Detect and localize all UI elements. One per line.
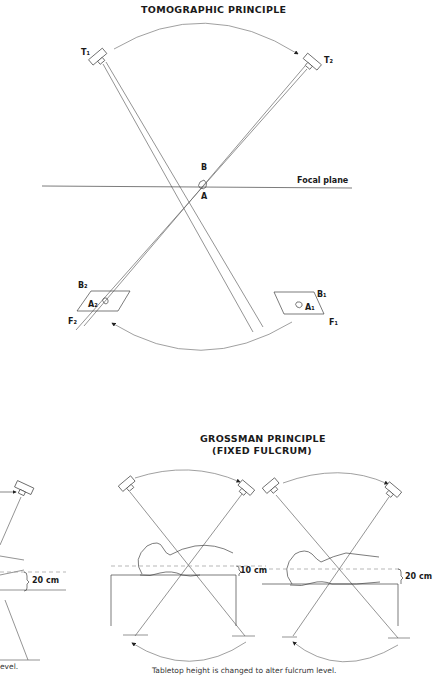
left-partial-caption: evel. xyxy=(0,662,18,671)
label-b2: B₂ xyxy=(78,281,88,290)
xray-tube-t2-icon xyxy=(301,53,322,73)
left-measure-label: 20 cm xyxy=(32,576,59,585)
label-a: A xyxy=(201,192,207,201)
bottom-diagram-title-line1: GROSSMAN PRINCIPLE xyxy=(200,433,326,444)
middle-measure-label: 10 cm xyxy=(240,566,267,575)
right-panel xyxy=(262,473,410,662)
label-b: B xyxy=(201,163,207,172)
diagram-canvas xyxy=(0,0,442,678)
middle-tube-arc xyxy=(135,470,240,482)
focal-plane-line xyxy=(42,186,352,188)
right-detector-arc xyxy=(293,642,398,662)
right-tube-arc xyxy=(283,473,388,484)
label-f2: F₂ xyxy=(68,317,77,326)
label-a1: A₁ xyxy=(305,303,315,312)
xray-tube-t1-icon xyxy=(89,48,110,68)
bottom-diagram-title-line2: (FIXED FULCRUM) xyxy=(212,445,312,456)
bottom-diagram xyxy=(0,470,410,662)
middle-detector-arc xyxy=(132,642,246,661)
label-focal-plane: Focal plane xyxy=(297,176,348,185)
xray-tube-right-right-icon xyxy=(382,482,401,501)
bottom-caption: Tabletop height is changed to alter fulc… xyxy=(152,666,336,675)
label-f1: F₁ xyxy=(329,318,338,327)
top-diagram-title: TOMOGRAPHIC PRINCIPLE xyxy=(141,4,286,15)
left-partial-panel xyxy=(0,481,66,660)
label-t1: T₁ xyxy=(81,48,90,57)
tube-motion-arc xyxy=(114,23,298,54)
xray-tube-left-partial-icon xyxy=(13,481,34,499)
xray-tube-right-left-icon xyxy=(262,478,281,497)
label-t2: T₂ xyxy=(324,56,333,65)
right-measure-label: 20 cm xyxy=(405,572,432,581)
label-a2: A₂ xyxy=(88,300,98,309)
label-b1: B₁ xyxy=(317,290,327,299)
film-motion-arc xyxy=(112,322,292,350)
xray-tube-middle-left-icon xyxy=(118,476,137,495)
film-f2 xyxy=(77,291,130,311)
xray-tube-middle-right-icon xyxy=(235,480,254,499)
